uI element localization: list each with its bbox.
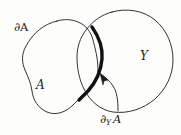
annotation-arrowhead-icon [100,73,108,85]
relative-boundary-arc [79,27,102,100]
math-figure: ∂A A Y ∂YA [0,0,181,135]
relative-partial-subscript: Y [106,118,111,127]
label-relative-boundary-of-A-in-Y: ∂YA [100,114,121,127]
label-set-Y: Y [140,50,148,62]
set-A-outline [23,20,99,114]
relative-partial-argument: A [113,112,121,126]
partial-symbol: ∂A [14,20,28,34]
label-set-A: A [36,79,45,91]
label-boundary-of-A: ∂A [14,22,28,34]
